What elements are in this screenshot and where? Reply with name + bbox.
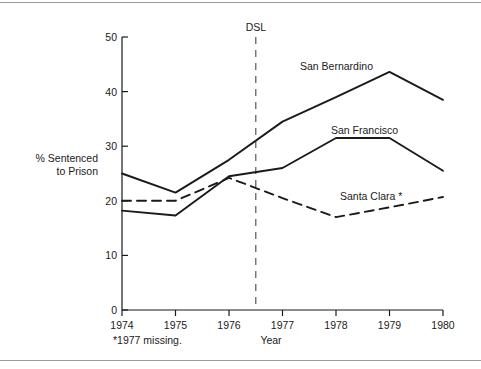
x-tick-label-1979: 1979 [370, 319, 410, 331]
y-tick-label-50: 50 [95, 31, 117, 43]
y-tick-label-30: 30 [95, 140, 117, 152]
series-label-san-bernardino: San Bernardino [300, 60, 373, 72]
y-tick-label-20: 20 [95, 195, 117, 207]
line-chart-plot [0, 0, 481, 369]
x-tick-label-1977: 1977 [263, 319, 303, 331]
x-tick-label-1975: 1975 [156, 319, 196, 331]
x-tick-label-1976: 1976 [209, 319, 249, 331]
series-line-san-francisco [122, 138, 443, 216]
y-tick-label-40: 40 [95, 86, 117, 98]
y-tick-label-0: 0 [95, 304, 117, 316]
chart-figure: 0 10 20 30 40 50 1974 1975 1976 1977 197… [0, 0, 481, 369]
series-label-san-francisco: San Francisco [331, 124, 398, 136]
dsl-annotation-label: DSL [236, 21, 276, 33]
y-axis-title-line1: % Sentenced [14, 152, 98, 165]
x-axis-title: Year [241, 334, 301, 346]
footnote-1977-missing: *1977 missing. [113, 334, 182, 346]
series-label-santa-clara: Santa Clara * [340, 190, 402, 202]
x-axis-ticks [122, 310, 443, 316]
x-tick-label-1978: 1978 [316, 319, 356, 331]
y-tick-label-10: 10 [95, 249, 117, 261]
x-tick-label-1974: 1974 [102, 319, 142, 331]
y-axis-title-line2: to Prison [14, 165, 98, 178]
x-tick-label-1980: 1980 [423, 319, 463, 331]
